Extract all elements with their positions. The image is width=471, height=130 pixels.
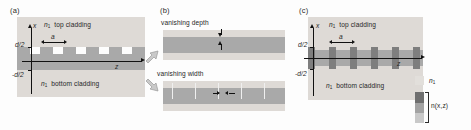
- panel-a-z-axis: [22, 61, 142, 62]
- panel-c-tick-lower: [310, 69, 314, 70]
- panel-a-top-cladding-text: top cladding: [54, 21, 91, 28]
- legend-swatch-gradient-dark: [415, 92, 424, 103]
- panel-a-axis-x-label: x: [33, 22, 36, 29]
- index-legend: n1 n(x,z): [415, 76, 471, 128]
- panel-a-tick-upper-label: d/2: [15, 41, 24, 48]
- legend-entry-index-label: n(x,z): [431, 102, 448, 109]
- panel-c-period-label: a: [339, 33, 343, 40]
- panel-a-bottom-torn-edge: [17, 93, 145, 97]
- panel-b-lower-core: [163, 88, 285, 104]
- panel-a-period-arrow-right: [64, 40, 67, 44]
- panel-a-top-torn-edge: [17, 15, 145, 19]
- panel-a-top-cladding-label: n1 top cladding: [44, 21, 91, 28]
- panel-b: (b) vanishing depth vanishing width: [155, 0, 295, 130]
- panel-c-top-torn-edge: [308, 15, 423, 19]
- panel-c-tick-lower-label: -d/2: [295, 70, 307, 77]
- panel-a-core-slab: [17, 54, 145, 70]
- panel-b-slit: [195, 83, 196, 99]
- panel-a-bottom-cladding-label: n1 bottom cladding: [41, 80, 99, 87]
- panel-c-x-axis-arrow: [310, 24, 314, 28]
- legend-swatch-gradient-mid: [415, 103, 424, 113]
- legend-brace: [425, 92, 429, 123]
- panel-b-lower-bottom-torn-edge: [163, 107, 285, 111]
- panel-b-vanishing-depth-label: vanishing depth: [161, 19, 209, 26]
- panel-b-slit: [241, 83, 242, 99]
- panel-c-bottom-torn-edge: [308, 96, 423, 100]
- panel-b-vanishing-width-label: vanishing width: [157, 70, 204, 77]
- panel-b-width-arrow-left-head: [225, 91, 228, 95]
- panel-b-upper-torn-edge: [163, 28, 285, 32]
- panel-a-period-arrow-line: [44, 42, 65, 43]
- panel-a-label: (a): [10, 6, 20, 15]
- panel-a-period-label: a: [51, 33, 55, 40]
- panel-b-width-arrow-right-stem: [229, 93, 235, 94]
- panel-c-x-axis: [313, 28, 314, 96]
- panel-a-tooth: [63, 47, 76, 55]
- legend-entry-cladding-label: n1: [429, 77, 435, 84]
- panel-c-top-cladding-text: top cladding: [339, 21, 376, 28]
- panel-c-axis-z-label: z: [397, 60, 400, 67]
- panel-a-tooth: [40, 47, 53, 55]
- panel-b-depth-arrow-up: [218, 41, 222, 45]
- legend-swatch-cladding: [415, 76, 424, 85]
- panel-a-tick-upper: [28, 47, 32, 48]
- panel-b-upper-core: [163, 37, 285, 53]
- panel-a-axis-z-label: z: [115, 63, 118, 70]
- panel-c-z-axis-arrow: [421, 55, 425, 59]
- panel-c-top-cladding-label: n1 top cladding: [329, 21, 376, 28]
- panel-b-width-arrow-right-head: [217, 91, 220, 95]
- panel-b-upper-bottom-torn-edge: [163, 56, 285, 60]
- panel-a-tick-lower-label: -d/2: [12, 71, 24, 78]
- panel-c-period-arrow-left: [329, 40, 332, 44]
- panel-c-axis-x-label: x: [316, 22, 319, 29]
- panel-b-slit: [264, 83, 265, 99]
- panel-b-slit: [172, 83, 173, 99]
- panel-a-period-arrow-left: [41, 40, 44, 44]
- panel-c-tick-upper-label: d/2: [298, 41, 307, 48]
- panel-a-x-axis-arrow: [28, 24, 32, 28]
- panel-c-bottom-cladding-text: bottom cladding: [336, 82, 384, 89]
- panel-a-tooth: [17, 47, 30, 55]
- legend-cladding-sub: 1: [433, 80, 436, 85]
- panel-a-bottom-cladding-text: bottom cladding: [51, 80, 99, 87]
- panel-c-label: (c): [299, 6, 308, 15]
- panel-c-period-arrow-line: [332, 42, 353, 43]
- panel-c-z-axis: [304, 58, 422, 59]
- figure-waveguide-gratings: (a) x z d/2: [0, 0, 471, 130]
- panel-b-lower-torn-edge: [163, 79, 285, 83]
- panel-b-label: (b): [160, 6, 170, 15]
- panel-a-tick-lower: [28, 70, 32, 71]
- panel-a: (a) x z d/2: [0, 0, 150, 130]
- panel-c-period-arrow-right: [352, 40, 355, 44]
- panel-a-tooth: [109, 47, 122, 55]
- legend-swatch-gradient-light: [415, 113, 424, 123]
- panel-c: (c) x z d/2: [295, 0, 471, 130]
- panel-b-depth-arrow-down: [218, 33, 222, 37]
- panel-c-bottom-cladding-label: n1 bottom cladding: [326, 82, 384, 89]
- panel-a-tooth: [86, 47, 99, 55]
- panel-c-tick-upper: [310, 47, 314, 48]
